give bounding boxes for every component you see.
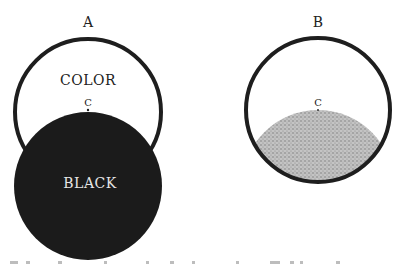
stippled-region bbox=[242, 110, 394, 262]
point-c-label-a: C bbox=[84, 97, 92, 108]
point-c-marker-a bbox=[87, 109, 89, 111]
diagram-b-label: B bbox=[313, 14, 323, 30]
diagram-a: A COLOR C BLACK bbox=[14, 14, 162, 260]
figure: A COLOR C BLACK B C bbox=[0, 0, 402, 264]
color-region-label: COLOR bbox=[60, 72, 116, 88]
diagram-b: B C bbox=[242, 14, 394, 262]
diagram-a-label: A bbox=[82, 14, 94, 30]
black-region-label: BLACK bbox=[63, 175, 116, 191]
point-c-marker-b bbox=[317, 109, 319, 111]
point-c-label-b: C bbox=[314, 97, 322, 108]
